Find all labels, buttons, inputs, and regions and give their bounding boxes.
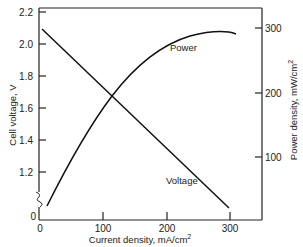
y2-tick-200: 200: [265, 88, 282, 99]
right-ticks: [255, 28, 262, 157]
x-tick-200: 200: [159, 223, 176, 234]
power-label: Power: [170, 42, 197, 53]
y2-tick-300: 300: [265, 23, 282, 34]
y-tick-1.6: 1.6: [19, 103, 33, 114]
power-curve: [47, 32, 236, 206]
x-axis-title: Current density, mA/cm2: [89, 233, 192, 245]
x-tick-300: 300: [222, 223, 239, 234]
y-tick-1.2: 1.2: [19, 167, 33, 178]
y-tick-2.0: 2.0: [19, 39, 33, 50]
y-tick-1.4: 1.4: [19, 135, 33, 146]
voltage-label: Voltage: [166, 175, 198, 186]
y2-axis-title: Power density, mW/cm2: [287, 60, 299, 160]
y-tick-2.2: 2.2: [19, 7, 33, 18]
x-tick-0: 0: [37, 223, 43, 234]
y-axis-title: Cell voltage, V: [7, 84, 18, 146]
voltage-line: [42, 29, 229, 208]
y-tick-0: 0: [30, 211, 36, 222]
left-ticks: [39, 12, 46, 172]
chart: 2.2 2.0 1.8 1.6 1.4 1.2 0 0 100 200 300 …: [0, 0, 303, 247]
bottom-ticks: [103, 212, 230, 220]
y2-tick-100: 100: [265, 152, 282, 163]
y-tick-1.8: 1.8: [19, 71, 33, 82]
plot-frame: [39, 8, 262, 220]
x-tick-100: 100: [95, 223, 112, 234]
axis-break-icon: [36, 192, 42, 207]
